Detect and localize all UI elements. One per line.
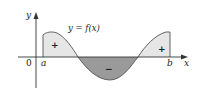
function-label: y = f(x) [67, 23, 100, 33]
bound-label-a: a [41, 58, 46, 68]
y-axis-arrow-icon [34, 12, 39, 19]
bound-label-b: b [167, 58, 173, 68]
positive-sign-right: + [158, 44, 166, 54]
y-axis-label: y [25, 10, 32, 20]
integral-area-diagram: y 0 a b x y = f(x) + − + [0, 0, 199, 93]
positive-sign-left: + [51, 40, 59, 50]
negative-sign: − [105, 64, 113, 74]
x-axis-label: x [184, 58, 189, 68]
origin-label: 0 [26, 58, 32, 68]
